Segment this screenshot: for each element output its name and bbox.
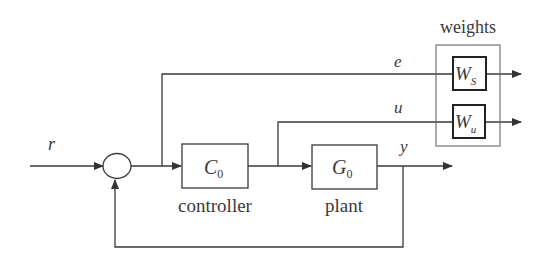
controller-symbol: C0 <box>204 156 223 181</box>
plant-caption: plant <box>325 195 364 216</box>
error-branch-line <box>162 74 453 166</box>
weights-caption: weights <box>440 17 496 37</box>
control-label: u <box>394 98 403 117</box>
weight-s-symbol: WS <box>455 63 477 87</box>
error-label: e <box>394 52 402 71</box>
plant-symbol: G0 <box>332 156 352 181</box>
summing-junction <box>103 154 131 179</box>
reference-label: r <box>48 134 56 154</box>
block-diagram: r e u y C0 controller G0 plant weights W… <box>0 0 559 260</box>
output-label: y <box>398 137 408 156</box>
controller-caption: controller <box>178 195 253 216</box>
control-branch-line <box>278 122 453 166</box>
weight-u-symbol: Wu <box>455 111 477 135</box>
